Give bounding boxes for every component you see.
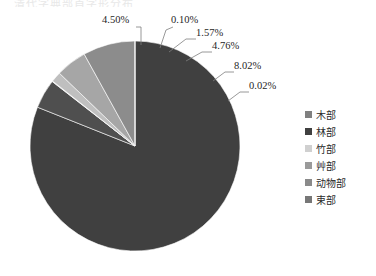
legend-swatch-icon — [305, 179, 312, 186]
pie-label-1: 0.10% — [171, 14, 198, 25]
pie-plot-area — [0, 0, 300, 276]
pie-label-4: 8.02% — [234, 60, 261, 71]
leader-line-0-02 — [228, 92, 249, 101]
legend-swatch-icon — [305, 111, 312, 118]
pie-slice-group — [30, 41, 240, 251]
pie-label-5: 0.02% — [249, 80, 276, 91]
legend-item-label: 动物部 — [316, 175, 346, 190]
legend-swatch-icon — [305, 162, 312, 169]
pie-label-0: 4.50% — [102, 14, 129, 25]
legend-item-label: 木部 — [316, 107, 336, 122]
legend-item-label: 束部 — [316, 192, 336, 207]
legend-item[interactable]: 林部 — [305, 123, 375, 139]
legend-item[interactable]: 艸部 — [305, 157, 375, 173]
pie-label-2: 1.57% — [196, 27, 223, 38]
legend-item-label: 林部 — [316, 124, 336, 139]
legend-item[interactable]: 动物部 — [305, 174, 375, 190]
legend-item[interactable]: 竹部 — [305, 140, 375, 156]
pie-svg — [0, 0, 300, 276]
pie-chart-figure: 清代字典部首字形分布 4.50% 0.10% 1.57% 4.76% 8.02%… — [0, 0, 376, 276]
legend-swatch-icon — [305, 145, 312, 152]
legend-item[interactable]: 束部 — [305, 191, 375, 207]
chart-legend: 木部林部竹部艸部动物部束部 — [305, 106, 375, 208]
legend-item-label: 艸部 — [316, 158, 336, 173]
legend-item-label: 竹部 — [316, 141, 336, 156]
legend-swatch-icon — [305, 128, 312, 135]
pie-label-3: 4.76% — [212, 40, 239, 51]
legend-swatch-icon — [305, 196, 312, 203]
legend-item[interactable]: 木部 — [305, 106, 375, 122]
